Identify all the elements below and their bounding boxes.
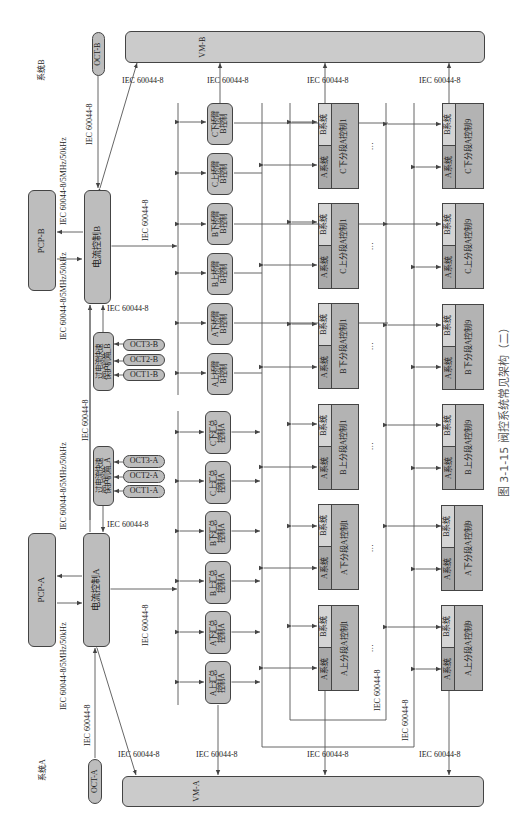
bridge-control-b: B下桥臂B控制 <box>207 203 233 245</box>
oct1-b-node: OCT1-B <box>123 369 165 381</box>
segment-box-col1: B系统 A系统 B下分段A控制1 <box>318 303 359 389</box>
segment-box-col9: B系统 A系统 A上分段A控制9 <box>441 605 483 691</box>
summary-control-a: C上汇总控制A <box>205 461 231 504</box>
protocol-label-vertical: IEC 60044-8 <box>80 390 92 450</box>
pcp-a-node: PCP-A <box>28 533 56 647</box>
protocol-label: IEC 60044-8 <box>419 750 461 759</box>
protocol-label-pcp: IEC 60044-8/5MHz/50kHz <box>58 125 70 237</box>
protocol-label-vertical: IEC 60044-8 <box>372 660 384 720</box>
protocol-label: IEC 60044-8 <box>207 76 249 85</box>
summary-control-a: A上汇总控制A <box>205 661 231 704</box>
ellipsis: … <box>366 438 376 454</box>
ellipsis: … <box>366 540 376 556</box>
vm-a-bar: VM-A <box>122 776 484 807</box>
oct3-b-node: OCT3-B <box>123 339 165 351</box>
vm-b-label: VM-B <box>199 37 207 58</box>
protocol-label-vertical: IEC 60044-8 <box>82 695 94 755</box>
connector-lines <box>0 0 515 828</box>
bridge-control-b: A上桥臂B控制 <box>207 353 233 395</box>
system-a-label: 系统A <box>36 755 50 785</box>
protocol-label: IEC 60044-8 <box>307 76 349 85</box>
current-control-b-node: 电流控制B <box>84 190 111 304</box>
segment-box-col1: B系统 A系统 A上分段A控制1 <box>318 605 359 691</box>
protocol-label-vertical: IEC 60044-8 <box>84 94 96 154</box>
bridge-control-b: A下桥臂B控制 <box>207 303 233 345</box>
ellipsis: … <box>366 338 376 354</box>
summary-control-a: B下汇总控制A <box>205 511 231 554</box>
bridge-control-b: C下桥臂B控制 <box>207 103 233 145</box>
ellipsis: … <box>366 640 376 656</box>
oct3-a-node: OCT3-A <box>123 455 165 468</box>
segment-box-col9: B系统 A系统 C下分段A控制9 <box>442 103 484 189</box>
overcurrent-protection-b: 过电流快速保护机箱_B <box>93 332 114 391</box>
summary-control-a: B上汇总控制A <box>205 561 231 604</box>
bridge-control-b: B上桥臂B控制 <box>207 253 233 295</box>
protocol-label: IEC 60044-8 <box>122 76 164 85</box>
oct1-a-node: OCT1-A <box>123 485 165 498</box>
protocol-label-pcp: IEC 60044-8/5MHz/50kHz <box>58 430 70 542</box>
segment-box-col1: B系统 A系统 A下分段A控制1 <box>318 504 359 590</box>
protocol-label: IEC 60044-8 <box>419 76 461 85</box>
oct2-b-node: OCT2-B <box>123 354 165 366</box>
protocol-label-pcp: IEC 60044-8/5MHz/50kHz <box>58 240 70 352</box>
protocol-label: IEC 60044-8 <box>196 750 238 759</box>
system-b-label: 系统B <box>36 55 50 85</box>
protocol-label: IEC 60044-8 <box>107 520 149 529</box>
protocol-label-vertical: IEC 60044-8 <box>140 595 152 655</box>
current-control-a-node: 电流控制A <box>83 533 110 647</box>
segment-box-col9: B系统 A系统 B上分段A控制9 <box>442 404 484 490</box>
segment-box-col9: B系统 A系统 C上分段A控制9 <box>442 203 484 289</box>
oct-b-node: OCT-B <box>92 32 105 76</box>
ellipsis: … <box>366 238 376 254</box>
segment-box-col9: B系统 A系统 A下分段A控制9 <box>441 505 483 591</box>
pcp-b-node: PCP-B <box>28 190 56 291</box>
oct-a-node: OCT-A <box>88 759 102 804</box>
vm-a-label: VM-A <box>194 781 202 802</box>
protocol-label-vertical: IEC 60044-8 <box>400 690 412 750</box>
segment-box-col9: B系统 A系统 B下分段A控制9 <box>442 304 484 390</box>
vm-b-bar: VM-B <box>125 31 485 63</box>
figure-caption: 图 3-1-15 阀控系统常见架构（二） <box>495 300 513 520</box>
oct2-a-node: OCT2-A <box>123 470 165 483</box>
summary-control-a: A下汇总控制A <box>205 611 231 654</box>
segment-box-col1: B系统 A系统 B上分段A控制1 <box>318 404 359 490</box>
protocol-label-vertical: IEC 60044-8 <box>140 190 152 250</box>
protocol-label-pcp: IEC 60044-8/5MHz/50kHz <box>58 610 70 722</box>
protocol-label: IEC 60044-8 <box>118 750 160 759</box>
summary-control-a: C下汇总控制A <box>205 411 231 454</box>
bridge-control-b: C上桥臂B控制 <box>207 153 233 195</box>
ellipsis: … <box>366 138 376 154</box>
segment-box-col1: B系统 A系统 C下分段A控制1 <box>318 103 359 189</box>
protocol-label: IEC 60044-8 <box>107 304 149 313</box>
segment-box-col1: B系统 A系统 C上分段A控制1 <box>318 203 359 289</box>
overcurrent-protection-a: 过电流快速保护机箱_A <box>93 446 114 506</box>
protocol-label: IEC 60044-8 <box>307 750 349 759</box>
